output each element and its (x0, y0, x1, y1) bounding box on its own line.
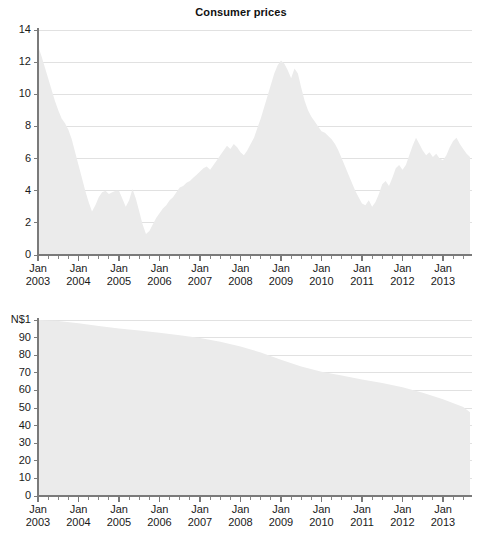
xtick-month: Jan (380, 262, 426, 275)
xtick-month: Jan (339, 262, 385, 275)
xtick-month: Jan (96, 262, 142, 275)
xtick-year: 2011 (339, 275, 385, 288)
purchasing-power-chart: Purchasing power 0102030405060708090N$1 … (0, 300, 482, 548)
xtick-year: 2006 (137, 275, 183, 288)
consumer-prices-xtick-label: Jan2005 (96, 262, 142, 287)
xtick-month: Jan (177, 262, 223, 275)
xtick-month: Jan (299, 262, 345, 275)
purchasing-power-xtick-label: Jan2007 (177, 503, 223, 528)
consumer-prices-ytick-label: 0 (25, 249, 31, 260)
xtick-month: Jan (218, 503, 264, 516)
xtick-month: Jan (56, 262, 102, 275)
consumer-prices-xtick-label: Jan2003 (15, 262, 61, 287)
consumer-prices-plot (0, 0, 482, 300)
purchasing-power-xtick-label: Jan2008 (218, 503, 264, 528)
xtick-month: Jan (137, 503, 183, 516)
purchasing-power-xtick-label: Jan2009 (258, 503, 304, 528)
xtick-year: 2010 (299, 275, 345, 288)
xtick-year: 2007 (177, 516, 223, 529)
purchasing-power-xtick-label: Jan2005 (96, 503, 142, 528)
xtick-month: Jan (339, 503, 385, 516)
consumer-prices-xtick-label: Jan2012 (380, 262, 426, 287)
xtick-month: Jan (420, 262, 466, 275)
xtick-year: 2009 (258, 275, 304, 288)
xtick-year: 2013 (420, 516, 466, 529)
xtick-month: Jan (258, 503, 304, 516)
consumer-prices-xtick-label: Jan2011 (339, 262, 385, 287)
xtick-year: 2005 (96, 516, 142, 529)
consumer-prices-chart: Consumer prices 02468101214 Jan2003Jan20… (0, 0, 482, 300)
purchasing-power-xtick-label: Jan2003 (15, 503, 61, 528)
consumer-prices-xtick-label: Jan2010 (299, 262, 345, 287)
xtick-month: Jan (420, 503, 466, 516)
consumer-prices-xtick-label: Jan2008 (218, 262, 264, 287)
consumer-prices-ytick-label: 8 (25, 120, 31, 131)
consumer-prices-ytick-label: 12 (19, 56, 31, 67)
consumer-prices-xtick-label: Jan2009 (258, 262, 304, 287)
consumer-prices-xtick-label: Jan2013 (420, 262, 466, 287)
xtick-month: Jan (15, 503, 61, 516)
xtick-month: Jan (15, 262, 61, 275)
purchasing-power-ytick-label: 80 (19, 349, 31, 360)
xtick-year: 2010 (299, 516, 345, 529)
consumer-prices-xtick-label: Jan2004 (56, 262, 102, 287)
purchasing-power-ytick-label: N$1 (11, 314, 31, 325)
xtick-month: Jan (137, 262, 183, 275)
xtick-month: Jan (380, 503, 426, 516)
purchasing-power-xtick-label: Jan2013 (420, 503, 466, 528)
consumer-prices-ytick-label: 14 (19, 24, 31, 35)
xtick-year: 2012 (380, 516, 426, 529)
xtick-year: 2004 (56, 516, 102, 529)
purchasing-power-ytick-label: 60 (19, 384, 31, 395)
purchasing-power-ytick-label: 70 (19, 367, 31, 378)
consumer-prices-ytick-label: 4 (25, 185, 31, 196)
xtick-year: 2007 (177, 275, 223, 288)
purchasing-power-xtick-label: Jan2010 (299, 503, 345, 528)
purchasing-power-ytick-label: 30 (19, 437, 31, 448)
consumer-prices-xtick-label: Jan2007 (177, 262, 223, 287)
xtick-month: Jan (96, 503, 142, 516)
purchasing-power-xtick-label: Jan2011 (339, 503, 385, 528)
purchasing-power-ytick-label: 10 (19, 472, 31, 483)
consumer-prices-ytick-label: 2 (25, 217, 31, 228)
xtick-year: 2003 (15, 516, 61, 529)
xtick-year: 2011 (339, 516, 385, 529)
xtick-month: Jan (177, 503, 223, 516)
consumer-prices-ytick-label: 6 (25, 153, 31, 164)
consumer-prices-ytick-label: 10 (19, 88, 31, 99)
xtick-year: 2005 (96, 275, 142, 288)
xtick-year: 2013 (420, 275, 466, 288)
purchasing-power-ytick-label: 20 (19, 455, 31, 466)
xtick-year: 2008 (218, 516, 264, 529)
xtick-month: Jan (258, 262, 304, 275)
purchasing-power-ytick-label: 0 (25, 490, 31, 501)
xtick-year: 2008 (218, 275, 264, 288)
xtick-year: 2012 (380, 275, 426, 288)
xtick-year: 2009 (258, 516, 304, 529)
xtick-month: Jan (218, 262, 264, 275)
purchasing-power-ytick-label: 50 (19, 402, 31, 413)
xtick-year: 2006 (137, 516, 183, 529)
purchasing-power-xtick-label: Jan2004 (56, 503, 102, 528)
purchasing-power-ytick-label: 90 (19, 332, 31, 343)
xtick-year: 2003 (15, 275, 61, 288)
xtick-year: 2004 (56, 275, 102, 288)
purchasing-power-xtick-label: Jan2012 (380, 503, 426, 528)
xtick-month: Jan (299, 503, 345, 516)
purchasing-power-xtick-label: Jan2006 (137, 503, 183, 528)
xtick-month: Jan (56, 503, 102, 516)
purchasing-power-ytick-label: 40 (19, 420, 31, 431)
consumer-prices-xtick-label: Jan2006 (137, 262, 183, 287)
